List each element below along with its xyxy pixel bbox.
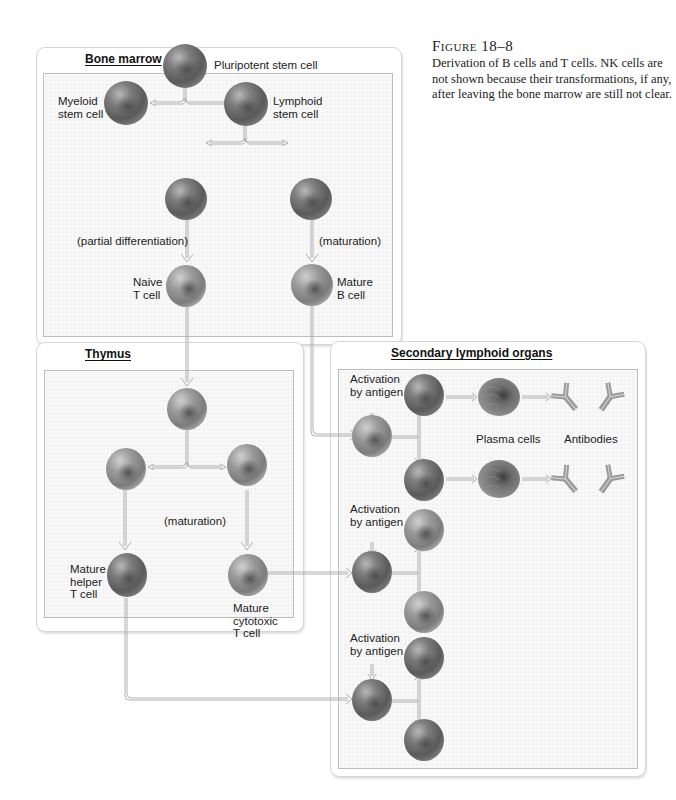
label-maturation-thymus: (maturation) [164, 515, 226, 528]
antibody-icon [551, 383, 583, 416]
helper-clone-bottom [404, 719, 444, 761]
cytotoxic-clone-top [404, 509, 444, 551]
label-lymphoid: Lymphoid stem cell [273, 95, 322, 120]
plasma-cell-bottom [478, 460, 520, 498]
activated-cytotoxic-t-cell [352, 551, 392, 593]
myeloid-stem-cell [104, 81, 148, 125]
b-clone-top [404, 374, 444, 416]
label-antibodies: Antibodies [564, 433, 618, 446]
label-pluripotent: Pluripotent stem cell [214, 59, 318, 72]
cells [104, 44, 520, 761]
label-plasma-cells: Plasma cells [476, 433, 541, 446]
b-progenitor-cell [290, 178, 332, 220]
thymus-t-cell [167, 388, 207, 430]
thymus-cd8-precursor [227, 444, 267, 486]
label-partial-differentiation: (partial differentiation) [77, 235, 188, 248]
pluripotent-stem-cell [163, 44, 207, 88]
plasma-cell-top [478, 378, 520, 416]
label-activation-2: Activation by antigen [350, 503, 403, 528]
label-maturation-bm: (maturation) [319, 235, 381, 248]
naive-t-cell [166, 265, 206, 307]
cytotoxic-clone-bottom [404, 591, 444, 633]
label-activation-3: Activation by antigen [350, 632, 403, 657]
antibody-icon [593, 383, 624, 416]
lymphoid-stem-cell [224, 82, 268, 126]
label-myeloid: Myeloid stem cell [58, 95, 103, 120]
activated-helper-t-cell [352, 679, 392, 721]
label-activation-1: Activation by antigen [350, 373, 403, 398]
label-naive-t-cell: Naive T cell [133, 276, 162, 301]
t-progenitor-cell [165, 178, 207, 220]
mature-helper-t-cell [107, 553, 147, 597]
b-clone-bottom [404, 459, 444, 501]
antibody-icon [593, 465, 624, 498]
helper-clone-top [404, 637, 444, 679]
thymus-cd4-precursor [106, 448, 146, 490]
activated-b-cell [352, 415, 392, 457]
label-mature-b-cell: Mature B cell [337, 276, 373, 301]
label-mature-cytotoxic-t-cell: Mature cytotoxic T cell [233, 602, 278, 640]
antibody-icon [551, 465, 583, 498]
label-mature-helper-t-cell: Mature helper T cell [70, 563, 106, 601]
diagram-graphics [0, 0, 676, 800]
mature-b-cell [291, 264, 333, 306]
mature-cytotoxic-t-cell [228, 554, 268, 596]
